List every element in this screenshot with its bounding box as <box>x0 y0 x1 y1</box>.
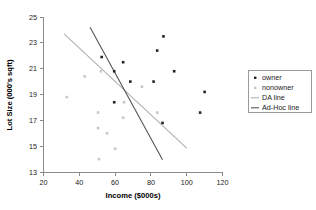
legend-marker-nonowner <box>254 87 256 89</box>
chart-canvas: 13151719212325 20406080100120 Income ($0… <box>0 0 316 210</box>
x-tick-label: 120 <box>217 178 229 187</box>
data-point-nonowner <box>122 116 125 119</box>
data-point-nonowner <box>65 96 68 99</box>
y-tick-label: 23 <box>29 38 37 47</box>
data-points-layer <box>65 35 205 160</box>
scatter-chart-figure: 13151719212325 20406080100120 Income ($0… <box>0 0 316 210</box>
x-axis-title: Income ($000s) <box>106 191 161 200</box>
data-point-owner <box>161 122 164 125</box>
data-point-nonowner <box>106 132 109 135</box>
y-tick-label: 15 <box>29 142 37 151</box>
y-tick-label: 13 <box>29 168 37 177</box>
data-point-owner <box>173 70 176 73</box>
data-point-owner <box>113 101 116 104</box>
y-axis-title: Lot Size (000's sqft) <box>5 59 14 130</box>
y-tick-group: 13151719212325 <box>29 13 44 177</box>
data-point-owner <box>156 49 159 52</box>
y-tick-label: 17 <box>29 116 37 125</box>
legend-label-nonowner: nonowner <box>262 83 294 92</box>
data-point-nonowner <box>123 101 126 104</box>
x-tick-group: 20406080100120 <box>40 173 229 188</box>
y-tick-label: 25 <box>29 13 37 22</box>
data-point-nonowner <box>83 75 86 78</box>
y-tick-label: 19 <box>29 90 37 99</box>
data-point-owner <box>162 35 165 38</box>
legend-marker-owner <box>254 77 256 79</box>
x-tick-label: 100 <box>181 178 193 187</box>
data-point-nonowner <box>156 111 159 114</box>
legend: ownernonownerDA lineAd-Hoc line <box>249 71 312 113</box>
legend-label-owner: owner <box>262 73 282 82</box>
data-point-nonowner <box>99 70 102 73</box>
data-point-nonowner <box>141 85 144 88</box>
data-point-nonowner <box>98 158 101 161</box>
y-tick-label: 21 <box>29 64 37 73</box>
x-tick-label: 60 <box>111 178 119 187</box>
data-point-nonowner <box>114 147 117 150</box>
data-point-nonowner <box>97 127 100 130</box>
data-point-owner <box>199 111 202 114</box>
data-point-owner <box>100 56 103 59</box>
data-point-owner <box>152 80 155 83</box>
legend-label-ad-hoc-line: Ad-Hoc line <box>262 103 299 112</box>
data-point-owner <box>129 80 132 83</box>
regression-lines-layer <box>64 27 187 159</box>
data-point-owner <box>122 61 125 64</box>
data-point-nonowner <box>97 111 100 114</box>
x-tick-label: 80 <box>147 178 155 187</box>
legend-label-da-line: DA line <box>262 93 285 102</box>
regression-line-ad-hoc-line <box>90 27 162 159</box>
data-point-owner <box>113 70 116 73</box>
x-tick-label: 20 <box>40 178 48 187</box>
data-point-owner <box>203 91 206 94</box>
x-tick-label: 40 <box>75 178 83 187</box>
